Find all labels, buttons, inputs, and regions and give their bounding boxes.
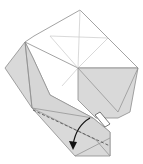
origami-diagram [0, 0, 143, 164]
gray-flap-right [78, 68, 138, 118]
